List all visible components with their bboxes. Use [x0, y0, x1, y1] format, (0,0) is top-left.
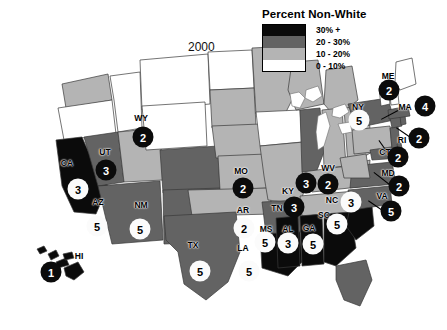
legend-label: 20 - 30% [316, 37, 350, 47]
state-value-marker-az[interactable]: 5 [87, 216, 108, 237]
state-value-marker-hi[interactable]: 1 [41, 262, 62, 283]
state-shape-ok[interactable] [188, 188, 272, 216]
state-value-marker-ca[interactable]: 3 [68, 179, 89, 200]
state-value-marker-ma[interactable]: 4 [415, 96, 436, 117]
state-value-marker-md[interactable]: 2 [389, 176, 410, 197]
legend-row: 30% + [262, 24, 402, 36]
state-label-az: AZ [92, 197, 103, 207]
state-label-ky: KY [282, 186, 294, 196]
state-shape-nd[interactable] [208, 50, 254, 90]
state-shape-hi-island-4[interactable] [63, 252, 74, 260]
state-value-marker-wv[interactable]: 2 [318, 174, 339, 195]
year-label: 2000 [188, 40, 215, 54]
state-label-wv: WV [321, 163, 335, 173]
state-label-ma: MA [398, 102, 411, 112]
state-shape-mt[interactable] [140, 54, 210, 110]
state-label-wy: WY [134, 113, 148, 123]
state-value-marker-wy[interactable]: 2 [133, 127, 154, 148]
state-value-marker-ga[interactable]: 5 [303, 234, 324, 255]
state-shape-tx[interactable] [164, 212, 240, 300]
state-value-marker-ut[interactable]: 3 [96, 160, 117, 181]
state-label-nc: NC [326, 195, 338, 205]
state-label-ga: GA [303, 223, 316, 233]
state-value-marker-nc[interactable]: 3 [341, 192, 362, 213]
state-label-nm: NM [134, 200, 147, 210]
state-value-marker-ct[interactable]: 2 [388, 147, 409, 168]
legend-swatch [262, 36, 306, 48]
state-label-ri: RI [398, 135, 407, 145]
state-value-marker-tn[interactable]: 3 [284, 197, 305, 218]
state-label-ar: AR [237, 205, 249, 215]
state-shape-ia[interactable] [256, 110, 302, 146]
state-value-marker-va[interactable]: 5 [381, 201, 402, 222]
state-label-ca: CA [61, 158, 73, 168]
state-shape-hi-island-1[interactable] [37, 246, 47, 254]
map-figure: 2000 Percent Non-White 30% +20 - 30%10 -… [0, 0, 447, 330]
state-label-ut: UT [99, 147, 110, 157]
state-shape-wv[interactable] [340, 154, 370, 178]
state-shape-co[interactable] [160, 146, 220, 193]
legend-row: 20 - 30% [262, 36, 402, 48]
state-value-marker-ny[interactable]: 5 [349, 110, 370, 131]
state-label-mo: MO [234, 166, 248, 176]
state-value-marker-la[interactable]: 5 [239, 261, 260, 282]
state-value-marker-ky[interactable]: 3 [296, 173, 317, 194]
legend-label: 0 - 10% [316, 61, 345, 71]
legend: Percent Non-White 30% +20 - 30%10 - 20%0… [262, 8, 402, 72]
state-value-marker-nm[interactable]: 5 [130, 219, 151, 240]
legend-title: Percent Non-White [262, 8, 402, 20]
state-value-marker-tx[interactable]: 5 [190, 261, 211, 282]
state-shape-fl[interactable] [336, 260, 372, 306]
legend-rows: 30% +20 - 30%10 - 20%0 - 10% [262, 24, 402, 72]
state-label-tx: TX [188, 240, 199, 250]
legend-swatch [262, 60, 306, 72]
state-value-marker-me[interactable]: 2 [379, 80, 400, 101]
state-label-tn: TN [271, 203, 282, 213]
state-value-marker-ar[interactable]: 2 [234, 218, 255, 239]
state-value-marker-mo[interactable]: 2 [233, 178, 254, 199]
state-shape-hi-island-2[interactable] [48, 250, 59, 260]
legend-label: 30% + [316, 25, 340, 35]
state-label-hi: HI [75, 251, 84, 261]
legend-swatch [262, 24, 306, 36]
state-value-marker-al[interactable]: 3 [278, 233, 299, 254]
state-label-va: VA [376, 191, 387, 201]
state-value-marker-ms[interactable]: 5 [255, 232, 276, 253]
state-shape-ne[interactable] [212, 124, 262, 158]
state-shape-sd[interactable] [210, 88, 256, 128]
state-value-marker-ri[interactable]: 2 [409, 128, 430, 149]
legend-label: 10 - 20% [316, 49, 350, 59]
legend-row: 10 - 20% [262, 48, 402, 60]
state-label-la: LA [237, 243, 248, 253]
legend-swatch [262, 48, 306, 60]
state-value-marker-sc[interactable]: 5 [327, 214, 348, 235]
